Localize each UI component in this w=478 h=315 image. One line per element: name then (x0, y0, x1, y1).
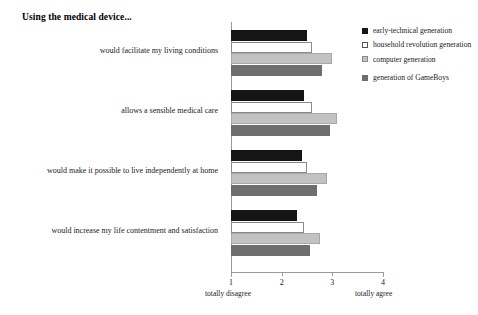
legend-label: computer generation (373, 55, 436, 64)
bar (231, 125, 330, 136)
bar (231, 113, 337, 124)
value-axis-line (231, 272, 383, 273)
chart-legend: early-technical generationhousehold revo… (362, 26, 476, 88)
legend-label: generation of GameBoys (373, 73, 449, 82)
bar (231, 210, 297, 221)
bar-chart: Using the medical device... 1234 would f… (0, 0, 478, 315)
scale-high-label: totally agree (355, 289, 392, 298)
bar (231, 53, 332, 64)
legend-item: household revolution generation (362, 40, 476, 49)
legend-swatch-icon (362, 28, 368, 34)
bar (231, 42, 312, 53)
axis-tick-label: 1 (229, 278, 233, 287)
axis-tick-label: 3 (330, 278, 334, 287)
bar (231, 65, 322, 76)
legend-swatch-icon (362, 56, 368, 62)
bar (231, 150, 302, 161)
category-label: would facilitate my living conditions (0, 46, 226, 55)
bar (231, 233, 320, 244)
axis-tick-label: 2 (280, 278, 284, 287)
legend-item: computer generation (362, 55, 476, 64)
bar (231, 222, 304, 233)
bar (231, 185, 317, 196)
legend-label: early-technical generation (373, 26, 452, 35)
chart-title: Using the medical device... (22, 12, 132, 22)
category-label: would make it possible to live independe… (0, 166, 226, 175)
bar (231, 245, 310, 256)
scale-low-label: totally disagree (205, 289, 251, 298)
legend-swatch-icon (362, 75, 368, 81)
axis-tick-label: 4 (381, 278, 385, 287)
bar (231, 102, 312, 113)
bar (231, 90, 304, 101)
legend-swatch-icon (362, 42, 368, 48)
axis-tick (332, 272, 333, 276)
legend-label: household revolution generation (373, 40, 471, 49)
axis-tick (383, 272, 384, 277)
legend-item: generation of GameBoys (362, 73, 476, 82)
bar (231, 173, 327, 184)
bar (231, 30, 307, 41)
category-label: would increase my life contentment and s… (0, 226, 226, 235)
legend-item: early-technical generation (362, 26, 476, 35)
bar (231, 162, 307, 173)
axis-tick (231, 272, 232, 277)
axis-tick (282, 272, 283, 276)
category-label: allows a sensible medical care (0, 106, 226, 115)
